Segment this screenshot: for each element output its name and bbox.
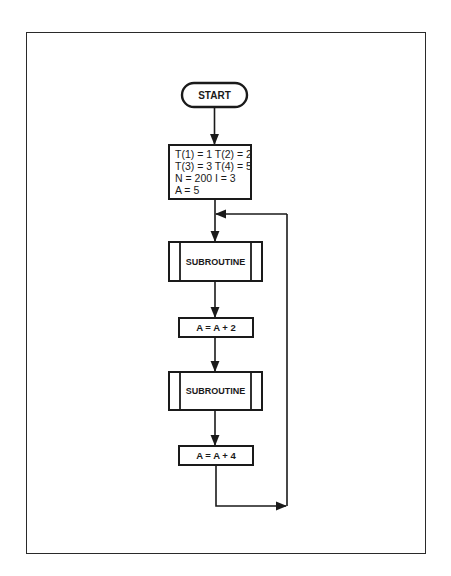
step-2-box: A = A + 4 bbox=[179, 446, 253, 465]
init-line-1: T(1) = 1 T(2) = 2 bbox=[175, 148, 252, 160]
start-terminal: START bbox=[182, 83, 247, 107]
step-1-label: A = A + 2 bbox=[196, 322, 236, 333]
init-line-2: T(3) = 3 T(4) = 5 bbox=[175, 160, 252, 172]
init-line-3: N = 200 I = 3 bbox=[175, 172, 236, 184]
subroutine-1-box: SUBROUTINE bbox=[169, 242, 262, 281]
init-box: T(1) = 1 T(2) = 2 T(3) = 3 T(4) = 5 N = … bbox=[169, 145, 252, 199]
start-label: START bbox=[198, 90, 231, 101]
flowchart: START T(1) = 1 T(2) = 2 T(3) = 3 T(4) = … bbox=[0, 0, 451, 576]
loop-bottom-connector bbox=[216, 465, 286, 506]
subroutine-1-label: SUBROUTINE bbox=[186, 257, 246, 267]
subroutine-2-box: SUBROUTINE bbox=[169, 372, 262, 410]
step-1-box: A = A + 2 bbox=[179, 318, 253, 337]
step-2-label: A = A + 4 bbox=[196, 450, 236, 461]
init-line-4: A = 5 bbox=[175, 184, 199, 196]
subroutine-2-label: SUBROUTINE bbox=[186, 386, 246, 396]
